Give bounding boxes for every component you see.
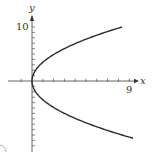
- x-tick-label-9: 9: [126, 84, 132, 95]
- y-arrow-icon: [30, 15, 34, 21]
- parabola-plot: x y 9 10: [0, 0, 152, 159]
- radio-button-partial[interactable]: [0, 145, 6, 152]
- y-axis-label: y: [28, 2, 35, 13]
- parabola-curve: [32, 27, 133, 138]
- y-tick-label-10: 10: [16, 21, 29, 32]
- x-axis-label: x: [140, 75, 146, 86]
- tick-marks: [21, 27, 129, 146]
- x-arrow-icon: [134, 79, 139, 83]
- axes: [8, 15, 139, 152]
